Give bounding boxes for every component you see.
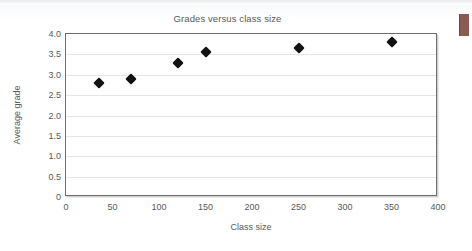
data-point [293, 43, 304, 54]
chart-page: Grades versus class size Average grade 0… [0, 0, 472, 251]
y-axis-label-text: Average grade [12, 85, 22, 144]
y-tick-label: 2.0 [48, 111, 61, 121]
x-tick-label: 350 [384, 202, 399, 212]
x-axis-label: Class size [65, 222, 437, 232]
y-gridline [66, 75, 436, 76]
y-gridline [66, 116, 436, 117]
x-tick-label: 250 [291, 202, 306, 212]
data-point [93, 77, 104, 88]
y-tick-label: 0 [56, 192, 61, 202]
data-point [386, 36, 397, 47]
plot-area: 00.51.01.52.02.53.03.54.0050100150200250… [65, 33, 437, 196]
y-tick-label: 4.0 [48, 29, 61, 39]
y-tick-label: 0.5 [48, 172, 61, 182]
x-tick-label: 150 [198, 202, 213, 212]
x-tick-label: 200 [244, 202, 259, 212]
y-tick-label: 3.0 [48, 70, 61, 80]
y-tick-label: 1.0 [48, 151, 61, 161]
y-gridline [66, 95, 436, 96]
y-tick-label: 3.5 [48, 49, 61, 59]
y-gridline [66, 156, 436, 157]
data-point [200, 47, 211, 58]
y-axis-label: Average grade [10, 33, 24, 196]
page-edge-marker [459, 14, 469, 36]
x-tick-label: 100 [151, 202, 166, 212]
y-gridline [66, 136, 436, 137]
x-tick-label: 50 [107, 202, 117, 212]
data-point [172, 57, 183, 68]
y-tick-label: 1.5 [48, 131, 61, 141]
chart-title: Grades versus class size [0, 13, 455, 24]
x-tick-label: 0 [63, 202, 68, 212]
y-gridline [66, 54, 436, 55]
y-gridline [66, 177, 436, 178]
x-tick-label: 300 [337, 202, 352, 212]
x-tick-label: 400 [430, 202, 445, 212]
page-top-strip [0, 0, 472, 5]
y-tick-label: 2.5 [48, 90, 61, 100]
